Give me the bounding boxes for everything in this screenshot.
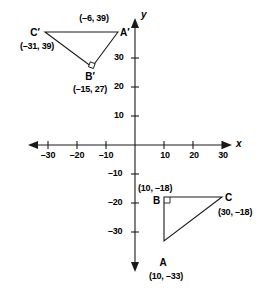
a-vertex-label: A xyxy=(159,258,166,268)
c-prime-vertex-label: C′ xyxy=(30,28,40,38)
y-axis-label: y xyxy=(141,10,147,20)
b-coordinate-label: (10, –18) xyxy=(138,184,172,193)
y-tick-label-neg10: –10 xyxy=(108,169,122,178)
y-axis-bottom-arrowhead xyxy=(131,262,139,272)
b-vertex-label: B xyxy=(153,196,160,206)
a-prime-coordinate-label: (–6, 39) xyxy=(79,14,108,23)
x-tick-label-pos20: 20 xyxy=(189,151,199,160)
a-coordinate-label: (10, –33) xyxy=(149,272,183,281)
c-prime-coordinate-label: (–31, 39) xyxy=(20,42,54,51)
x-tick-label-neg20: –20 xyxy=(70,151,84,160)
b-prime-vertex-label: B′ xyxy=(85,72,95,82)
a-prime-vertex-label: A′ xyxy=(120,28,130,38)
y-tick-label-neg30: –30 xyxy=(108,227,122,236)
y-tick-label-pos10: 10 xyxy=(114,111,124,120)
y-tick-label-pos30: 30 xyxy=(114,53,124,62)
x-tick-label-pos10: 10 xyxy=(160,151,170,160)
c-vertex-label: C xyxy=(225,193,232,203)
y-tick-label-pos20: 20 xyxy=(114,82,124,91)
triangle-abc xyxy=(164,197,222,241)
x-tick-label-pos30: 30 xyxy=(218,151,228,160)
coordinate-plane-figure: –30 –20 –10 10 20 30 30 20 10 –10 –20 –3… xyxy=(0,0,264,294)
b-prime-coordinate-label: (–15, 27) xyxy=(73,85,107,94)
right-angle-marker-b xyxy=(164,197,170,203)
triangle-a-prime-b-prime-c-prime xyxy=(45,32,118,67)
y-tick-label-neg20: –20 xyxy=(108,198,122,207)
right-angle-marker-b-prime xyxy=(88,62,95,69)
y-axis-top-arrowhead xyxy=(131,18,139,28)
x-axis-label: x xyxy=(236,139,242,149)
x-tick-label-neg10: –10 xyxy=(99,151,113,160)
x-axis-right-arrowhead xyxy=(222,141,232,149)
x-tick-label-neg30: –30 xyxy=(41,151,55,160)
c-coordinate-label: (30, –18) xyxy=(218,208,252,217)
x-axis-left-arrowhead xyxy=(28,141,38,149)
